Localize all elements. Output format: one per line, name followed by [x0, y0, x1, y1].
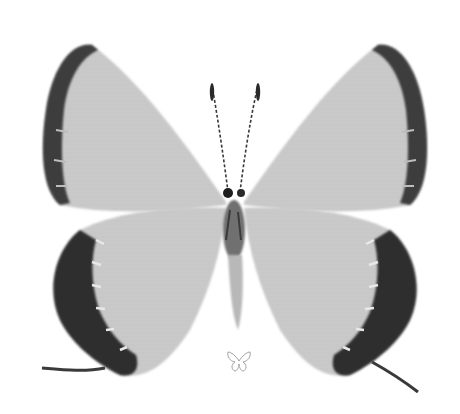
left-forewing [43, 45, 226, 212]
antennae [210, 83, 260, 192]
body [223, 188, 245, 330]
right-forewing [244, 45, 427, 212]
butterfly-outline-icon [226, 349, 252, 375]
left-hindwing [42, 208, 226, 376]
right-hindwing [244, 208, 418, 392]
